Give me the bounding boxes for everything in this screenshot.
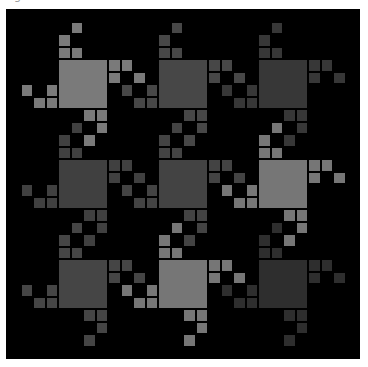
left-arm-cell: [133, 197, 146, 210]
left-arm-cell: [146, 284, 159, 297]
body-cell: [58, 259, 108, 309]
bottom-arm-cell: [283, 109, 296, 122]
left-arm-cell: [46, 97, 59, 110]
bottom-arm-cell: [83, 234, 96, 247]
bottom-arm-cell: [283, 309, 296, 322]
top-arm-cell: [171, 147, 184, 160]
top-arm-cell: [71, 122, 84, 135]
left-arm-cell: [233, 97, 246, 110]
top-arm-cell: [271, 222, 284, 235]
bottom-arm-cell: [296, 322, 309, 335]
right-arm-cell: [233, 272, 246, 285]
body-cell: [258, 259, 308, 309]
right-arm-cell: [333, 72, 346, 85]
top-arm-cell: [171, 222, 184, 235]
body-cell: [158, 159, 208, 209]
body-cell: [158, 259, 208, 309]
top-arm-cell: [171, 247, 184, 260]
top-arm-cell: [58, 147, 71, 160]
bottom-arm-cell: [83, 309, 96, 322]
top-arm-cell: [58, 34, 71, 47]
right-arm-cell: [208, 159, 221, 172]
bottom-arm-cell: [196, 122, 209, 135]
right-arm-cell: [208, 72, 221, 85]
left-arm-cell: [221, 284, 234, 297]
left-arm-cell: [33, 97, 46, 110]
right-arm-cell: [208, 272, 221, 285]
right-arm-cell: [308, 59, 321, 72]
bottom-arm-cell: [183, 309, 196, 322]
bottom-arm-cell: [83, 109, 96, 122]
right-arm-cell: [221, 59, 234, 72]
top-arm-cell: [258, 234, 271, 247]
bottom-arm-cell: [96, 109, 109, 122]
top-arm-cell: [71, 147, 84, 160]
left-arm-cell: [46, 184, 59, 197]
top-arm-cell: [58, 234, 71, 247]
left-arm-cell: [133, 97, 146, 110]
top-arm-cell: [258, 34, 271, 47]
right-arm-cell: [333, 272, 346, 285]
bottom-arm-cell: [196, 222, 209, 235]
bottom-arm-cell: [183, 134, 196, 147]
body-cell: [58, 59, 108, 109]
bottom-arm-cell: [196, 309, 209, 322]
bottom-arm-cell: [83, 209, 96, 222]
top-arm-cell: [158, 234, 171, 247]
right-arm-cell: [108, 59, 121, 72]
left-arm-cell: [121, 84, 134, 97]
right-arm-cell: [208, 59, 221, 72]
left-arm-cell: [246, 297, 259, 310]
right-arm-cell: [321, 259, 334, 272]
right-arm-cell: [133, 272, 146, 285]
right-arm-cell: [121, 59, 134, 72]
right-arm-cell: [121, 159, 134, 172]
bottom-arm-cell: [296, 122, 309, 135]
top-arm-cell: [158, 47, 171, 60]
left-arm-cell: [246, 184, 259, 197]
left-arm-cell: [46, 84, 59, 97]
bottom-arm-cell: [196, 109, 209, 122]
bottom-arm-cell: [283, 209, 296, 222]
bottom-arm-cell: [283, 334, 296, 347]
bottom-arm-cell: [183, 109, 196, 122]
bottom-arm-cell: [183, 234, 196, 247]
body-cell: [258, 59, 308, 109]
right-arm-cell: [333, 172, 346, 185]
right-arm-cell: [108, 159, 121, 172]
right-arm-cell: [133, 172, 146, 185]
bottom-arm-cell: [296, 222, 309, 235]
right-arm-cell: [108, 172, 121, 185]
bottom-arm-cell: [83, 134, 96, 147]
right-arm-cell: [308, 259, 321, 272]
bottom-arm-cell: [296, 109, 309, 122]
bottom-arm-cell: [183, 334, 196, 347]
top-arm-cell: [271, 147, 284, 160]
right-arm-cell: [108, 72, 121, 85]
left-arm-cell: [21, 84, 34, 97]
left-arm-cell: [121, 284, 134, 297]
bottom-arm-cell: [96, 322, 109, 335]
right-arm-cell: [308, 72, 321, 85]
body-cell: [158, 59, 208, 109]
bottom-arm-cell: [296, 309, 309, 322]
right-arm-cell: [208, 172, 221, 185]
top-arm-cell: [171, 122, 184, 135]
top-arm-cell: [158, 247, 171, 260]
bottom-arm-cell: [96, 222, 109, 235]
right-arm-cell: [208, 259, 221, 272]
top-arm-cell: [158, 147, 171, 160]
left-arm-cell: [33, 197, 46, 210]
left-arm-cell: [233, 197, 246, 210]
right-arm-cell: [233, 72, 246, 85]
right-arm-cell: [108, 272, 121, 285]
left-arm-cell: [46, 297, 59, 310]
bottom-arm-cell: [183, 209, 196, 222]
left-arm-cell: [46, 197, 59, 210]
right-arm-cell: [308, 272, 321, 285]
top-arm-cell: [271, 122, 284, 135]
bottom-arm-cell: [283, 234, 296, 247]
left-arm-cell: [221, 84, 234, 97]
bottom-arm-cell: [196, 209, 209, 222]
bottom-arm-cell: [96, 309, 109, 322]
